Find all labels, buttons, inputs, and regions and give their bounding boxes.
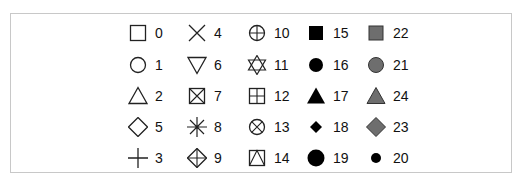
cross-icon — [187, 23, 207, 43]
symbol-label: 17 — [333, 86, 349, 106]
symbol-23: 23 — [366, 117, 409, 137]
grey-filled-triangle-icon — [366, 86, 386, 106]
filled-circle-icon — [306, 55, 326, 75]
symbol-label: 11 — [274, 55, 289, 75]
symbol-label: 20 — [393, 148, 409, 168]
symbol-label: 24 — [393, 86, 409, 106]
star-of-david-icon — [247, 55, 267, 75]
symbol-label: 0 — [155, 23, 163, 43]
symbol-label: 14 — [274, 148, 290, 168]
grey-filled-square-icon — [366, 23, 386, 43]
grey-filled-diamond-icon — [366, 117, 386, 137]
symbol-5: 5 — [128, 117, 163, 137]
symbol-22: 22 — [366, 23, 409, 43]
symbol-3: 3 — [128, 148, 163, 168]
symbol-label: 10 — [274, 23, 290, 43]
open-diamond-icon — [128, 117, 148, 137]
symbol-4: 4 — [187, 23, 222, 43]
symbol-24: 24 — [366, 86, 409, 106]
symbol-9: 9 — [187, 148, 222, 168]
symbol-0: 0 — [128, 23, 163, 43]
square-plus-icon — [247, 86, 267, 106]
symbol-label: 6 — [214, 55, 222, 75]
circle-cross-icon — [247, 117, 267, 137]
symbol-6: 6 — [187, 55, 222, 75]
symbol-label: 7 — [214, 86, 222, 106]
symbol-label: 18 — [333, 117, 349, 137]
symbol-12: 12 — [247, 86, 290, 106]
symbol-label: 22 — [393, 23, 409, 43]
symbol-label: 4 — [214, 23, 222, 43]
triangle-down-icon — [187, 55, 207, 75]
symbol-label: 23 — [393, 117, 409, 137]
open-circle-icon — [128, 55, 148, 75]
plus-icon — [128, 148, 148, 168]
grey-filled-circle-icon — [366, 55, 386, 75]
diamond-plus-icon — [187, 148, 207, 168]
symbol-label: 2 — [155, 86, 163, 106]
symbol-label: 12 — [274, 86, 290, 106]
symbol-label: 5 — [155, 117, 163, 137]
symbol-13: 13 — [247, 117, 290, 137]
symbol-label: 16 — [333, 55, 349, 75]
filled-diamond-icon — [306, 117, 326, 137]
symbol-19: 19 — [306, 148, 349, 168]
symbol-label: 15 — [333, 23, 349, 43]
symbol-label: 1 — [155, 55, 163, 75]
symbol-20: 20 — [366, 148, 409, 168]
asterisk-icon — [187, 117, 207, 137]
open-triangle-icon — [128, 86, 148, 106]
symbol-11: 11 — [247, 55, 289, 75]
filled-large-circle-icon — [306, 148, 326, 168]
symbol-14: 14 — [247, 148, 290, 168]
symbol-10: 10 — [247, 23, 290, 43]
circle-plus-icon — [247, 23, 267, 43]
symbol-8: 8 — [187, 117, 222, 137]
symbol-label: 3 — [155, 148, 163, 168]
symbol-label: 9 — [214, 148, 222, 168]
symbol-17: 17 — [306, 86, 349, 106]
symbol-21: 21 — [366, 55, 409, 75]
symbol-15: 15 — [306, 23, 349, 43]
filled-small-circle-icon — [366, 148, 386, 168]
symbol-18: 18 — [306, 117, 349, 137]
symbol-label: 21 — [393, 55, 409, 75]
square-cross-icon — [187, 86, 207, 106]
filled-square-icon — [306, 23, 326, 43]
symbol-label: 8 — [214, 117, 222, 137]
symbol-7: 7 — [187, 86, 222, 106]
symbol-16: 16 — [306, 55, 349, 75]
symbol-1: 1 — [128, 55, 163, 75]
square-triangle-icon — [247, 148, 267, 168]
symbol-label: 19 — [333, 148, 349, 168]
symbol-2: 2 — [128, 86, 163, 106]
open-square-icon — [128, 23, 148, 43]
filled-triangle-icon — [306, 86, 326, 106]
symbol-label: 13 — [274, 117, 290, 137]
